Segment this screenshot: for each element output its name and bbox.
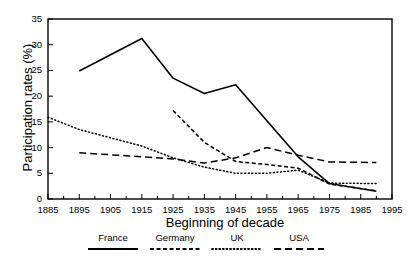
- y-tick-label: 20: [16, 91, 42, 101]
- legend-item-usa[interactable]: USA: [266, 232, 332, 253]
- y-tick-label: 15: [16, 117, 42, 127]
- legend-item-germany[interactable]: Germany: [142, 232, 208, 253]
- legend-item-france[interactable]: France: [80, 232, 146, 253]
- chart-legend: FranceGermanyUKUSA: [0, 232, 418, 268]
- series-line-usa: [79, 148, 376, 163]
- y-tick-label: 30: [16, 40, 42, 50]
- y-tick-label: 10: [16, 143, 42, 153]
- y-tick-label: 35: [16, 14, 42, 24]
- plot-frame: [48, 19, 392, 199]
- legend-label: Germany: [142, 232, 208, 243]
- legend-label: UK: [204, 232, 270, 243]
- legend-label: USA: [266, 232, 332, 243]
- legend-swatch-usa: [273, 245, 325, 253]
- data-series-group: [48, 39, 376, 192]
- x-tick-label: 1995: [372, 205, 412, 215]
- x-axis-title: Beginning of decade: [60, 215, 390, 230]
- y-tick-label: 25: [16, 65, 42, 75]
- participation-rates-line-chart: Participation rates (%) Beginning of dec…: [0, 0, 418, 268]
- series-line-uk: [48, 117, 376, 183]
- legend-swatch-uk: [211, 245, 263, 253]
- legend-item-uk[interactable]: UK: [204, 232, 270, 253]
- series-line-france: [79, 39, 376, 192]
- legend-swatch-germany: [149, 245, 201, 253]
- legend-swatch-france: [87, 245, 139, 253]
- legend-label: France: [80, 232, 146, 243]
- series-line-germany: [173, 111, 376, 191]
- axis-ticks: [48, 19, 392, 199]
- y-tick-label: 0: [16, 194, 42, 204]
- y-tick-label: 5: [16, 168, 42, 178]
